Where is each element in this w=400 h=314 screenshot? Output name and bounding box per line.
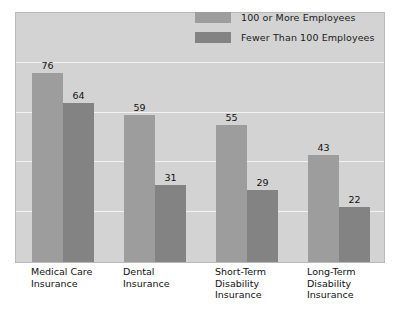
bar-series-group: 7664593155294322 bbox=[16, 13, 384, 262]
legend-item-1: Fewer Than 100 Employees bbox=[195, 28, 395, 46]
x-axis-label-line: Medical Care bbox=[31, 266, 92, 278]
x-axis-label-1: DentalInsurance bbox=[123, 266, 170, 289]
bar-1-1 bbox=[155, 185, 186, 262]
legend-label-fewer-than-100: Fewer Than 100 Employees bbox=[241, 32, 375, 43]
bar-value-label: 59 bbox=[124, 102, 155, 113]
bar-1-3 bbox=[339, 207, 370, 262]
legend-label-100-or-more: 100 or More Employees bbox=[241, 12, 356, 23]
bar-0-1 bbox=[124, 115, 155, 262]
bar-value-label: 29 bbox=[247, 177, 278, 188]
bar-1-0 bbox=[63, 103, 94, 262]
x-axis-label-3: Long-TermDisabilityInsurance bbox=[307, 266, 356, 301]
chart-legend: 100 or More Employees Fewer Than 100 Emp… bbox=[195, 8, 395, 48]
x-axis-label-line: Insurance bbox=[307, 289, 356, 301]
legend-item-0: 100 or More Employees bbox=[195, 8, 395, 26]
plot-area: 7664593155294322 bbox=[15, 12, 385, 263]
bar-value-label: 64 bbox=[63, 90, 94, 101]
bar-1-2 bbox=[247, 190, 278, 262]
x-axis-label-line: Short-Term bbox=[215, 266, 266, 278]
legend-swatch-fewer-than-100 bbox=[195, 32, 231, 43]
bar-value-label: 76 bbox=[32, 60, 63, 71]
x-axis-label-2: Short-TermDisabilityInsurance bbox=[215, 266, 266, 301]
x-axis-label-line: Insurance bbox=[123, 278, 170, 290]
bar-value-label: 31 bbox=[155, 172, 186, 183]
legend-swatch-100-or-more bbox=[195, 12, 231, 23]
x-axis-labels: Medical CareInsuranceDentalInsuranceShor… bbox=[15, 266, 385, 314]
bar-value-label: 22 bbox=[339, 194, 370, 205]
x-axis-label-line: Long-Term bbox=[307, 266, 356, 278]
x-axis-label-line: Disability bbox=[307, 278, 356, 290]
bar-0-0 bbox=[32, 73, 63, 262]
x-axis-label-line: Disability bbox=[215, 278, 266, 290]
bar-0-3 bbox=[308, 155, 339, 262]
x-axis-label-line: Insurance bbox=[31, 278, 92, 290]
x-axis-label-line: Dental bbox=[123, 266, 170, 278]
x-axis-label-line: Insurance bbox=[215, 289, 266, 301]
bar-value-label: 43 bbox=[308, 142, 339, 153]
bar-0-2 bbox=[216, 125, 247, 262]
bar-chart: 7664593155294322 100 or More Employees F… bbox=[0, 0, 400, 314]
bar-value-label: 55 bbox=[216, 112, 247, 123]
x-axis-label-0: Medical CareInsurance bbox=[31, 266, 92, 289]
